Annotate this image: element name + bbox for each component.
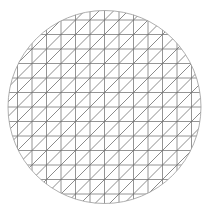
disk-mesh-diagram [0,0,209,212]
